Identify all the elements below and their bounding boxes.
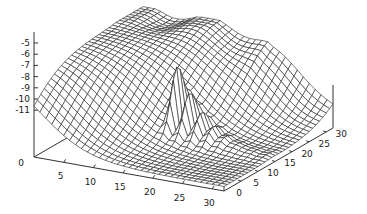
- z-tick-label: -7: [21, 60, 30, 70]
- z-tick-label: -8: [21, 72, 30, 82]
- surface-plot: -5-6-7-8-9-10-11 051015202530 0510152025…: [0, 0, 367, 214]
- y-tick-label: 5: [253, 178, 259, 188]
- z-tick-label: -6: [21, 49, 30, 59]
- y-tick-label: 20: [301, 149, 313, 159]
- y-tick-label: 10: [267, 168, 279, 178]
- z-tick-label: -11: [15, 105, 30, 115]
- x-tick-label: 0: [18, 158, 24, 168]
- y-tick-label: 30: [335, 129, 347, 139]
- x-tick-label: 10: [85, 177, 97, 187]
- y-tick-label: 15: [284, 158, 295, 168]
- x-tick-label: 5: [58, 171, 64, 181]
- z-axis-ticks: -5-6-7-8-9-10-11: [15, 38, 38, 115]
- x-tick-label: 15: [114, 182, 125, 192]
- x-tick-label: 30: [203, 198, 215, 208]
- y-tick-label: 25: [318, 139, 329, 149]
- z-tick-label: -10: [15, 94, 30, 104]
- z-tick-label: -5: [21, 38, 30, 48]
- x-tick-label: 25: [174, 193, 185, 203]
- z-tick-label: -9: [21, 83, 30, 93]
- x-tick-label: 20: [144, 187, 156, 197]
- y-tick-label: 0: [236, 188, 242, 198]
